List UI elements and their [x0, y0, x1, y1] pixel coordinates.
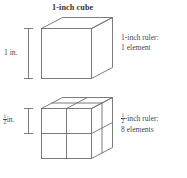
cube-one-front-face: [42, 29, 92, 79]
dimension-bar-half-inch: [25, 109, 33, 134]
cube-ruler-diagram: 1-inch cube 1 in. 1-inch ruler: 1 elemen…: [0, 0, 187, 178]
dimension-bar-one-inch: [25, 29, 33, 79]
cube-half-right-face: [92, 98, 113, 159]
cube-line-art: [0, 0, 187, 178]
cube-one-right-face: [92, 18, 113, 79]
cube-half-front-face: [42, 109, 92, 159]
